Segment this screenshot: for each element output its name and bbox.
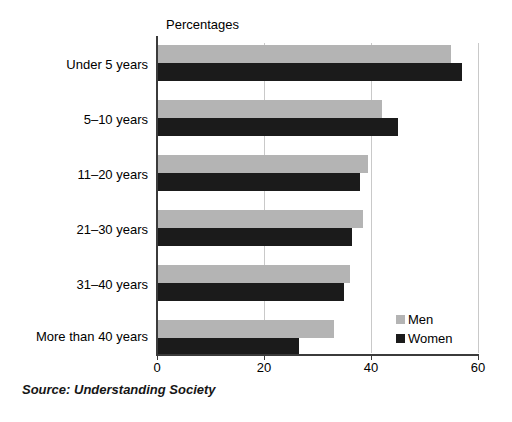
units-caption: Percentages: [166, 17, 239, 32]
value-axis-zero-line: [156, 36, 158, 356]
category-label-2: 11–20 years: [9, 167, 157, 182]
category-label-3: 21–30 years: [9, 222, 157, 237]
category-label-0: Under 5 years: [9, 57, 157, 72]
bar-women: [157, 118, 398, 136]
bar-group: [157, 100, 478, 136]
legend-item-women: Women: [396, 329, 480, 348]
bar-women: [157, 173, 360, 191]
tick-label-40: 40: [351, 360, 391, 375]
bar-group: [157, 265, 478, 301]
category-label-4: 31–40 years: [9, 277, 157, 292]
tick-label-60: 60: [458, 360, 498, 375]
bar-men: [157, 265, 350, 283]
category-axis-labels: Under 5 years 5–10 years 11–20 years 21–…: [0, 43, 157, 353]
legend-item-men: Men: [396, 310, 480, 329]
bar-men: [157, 320, 334, 338]
legend-label-women: Women: [408, 331, 453, 346]
source-note: Source: Understanding Society: [22, 382, 216, 398]
bar-women: [157, 228, 352, 246]
legend-swatch-men-icon: [396, 315, 405, 324]
value-axis-line: [156, 354, 479, 356]
bar-group: [157, 45, 478, 81]
legend-swatch-women-icon: [396, 334, 405, 343]
bar-group: [157, 155, 478, 191]
category-label-1: 5–10 years: [9, 112, 157, 127]
plot-area: [157, 43, 478, 353]
gridline-20: [264, 43, 265, 353]
legend-label-men: Men: [408, 312, 433, 327]
bar-group: [157, 210, 478, 246]
bar-men: [157, 100, 382, 118]
chart-legend: Men Women: [396, 310, 480, 348]
bar-men: [157, 210, 363, 228]
bar-men: [157, 155, 368, 173]
gridline-40: [371, 43, 372, 353]
category-label-5: More than 40 years: [9, 329, 157, 344]
chart-figure: Percentages Under 5 years 5–10 years 11–…: [0, 0, 512, 422]
gridline-60: [478, 43, 479, 353]
bar-women: [157, 63, 462, 81]
tick-label-0: 0: [137, 360, 177, 375]
bar-women: [157, 283, 344, 301]
tick-label-20: 20: [244, 360, 284, 375]
bar-men: [157, 45, 451, 63]
